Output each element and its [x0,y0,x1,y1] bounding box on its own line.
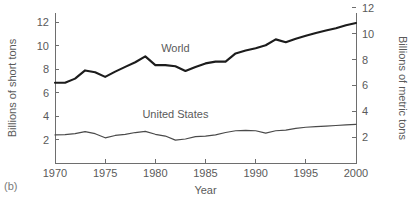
series-line-world [55,23,356,83]
y-tick-label-right: 10 [362,28,374,40]
x-tick-label: 1975 [93,167,117,179]
line-chart: 1970197519801985199019952000 24681012 24… [0,0,410,200]
panel-label: (b) [4,180,17,192]
x-tick-label: 1970 [43,167,67,179]
y-tick-label-left: 2 [43,134,49,146]
series-label-united-states: United States [142,108,209,120]
series-label-world: World [161,42,190,54]
x-axis-ticks: 1970197519801985199019952000 [43,159,368,179]
series-lines [55,23,356,140]
y-axis-left-title: Billions of short tons [6,38,18,137]
y-tick-label-right: 8 [362,54,368,66]
y-tick-label-left: 12 [37,16,49,28]
y-tick-label-left: 4 [43,110,49,122]
y-tick-label-left: 10 [37,40,49,52]
y-axis-left-ticks: 24681012 [37,16,59,145]
plot-frame [55,13,356,163]
series-line-united-states [55,124,356,140]
x-tick-label: 2000 [344,167,368,179]
x-tick-label: 1980 [143,167,167,179]
x-tick-label: 1995 [294,167,318,179]
y-tick-label-right: 4 [362,105,368,117]
x-tick-label: 1990 [243,167,267,179]
y-tick-label-right: 12 [362,2,374,14]
y-tick-label-left: 8 [43,63,49,75]
y-tick-label-right: 2 [362,131,368,143]
y-tick-label-right: 6 [362,79,368,91]
y-axis-right-title: Billions of metric tons [397,36,409,140]
series-inline-labels: WorldUnited States [142,42,209,120]
y-tick-label-left: 6 [43,87,49,99]
x-tick-label: 1985 [193,167,217,179]
figure-container: 1970197519801985199019952000 24681012 24… [0,0,410,200]
x-axis-title: Year [194,184,217,196]
